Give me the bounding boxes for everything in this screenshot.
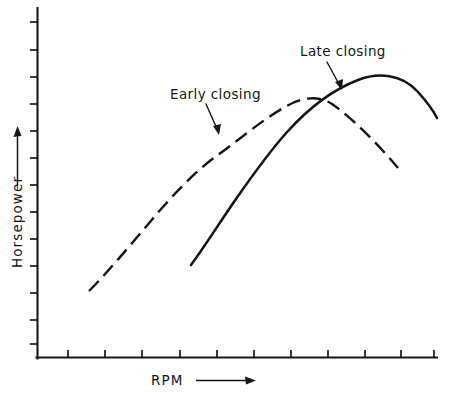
x-axis-label: RPM bbox=[151, 372, 183, 388]
late-closing-label: Late closing bbox=[300, 43, 386, 59]
y-axis-label: Horsepower bbox=[9, 176, 25, 268]
early-closing-annotation: Early closing bbox=[170, 86, 261, 135]
chart-figure: Early closing Late closing RPM Horsepowe… bbox=[0, 0, 453, 395]
early-closing-leader-arrowhead bbox=[213, 124, 221, 135]
x-axis-label-group: RPM bbox=[151, 372, 256, 388]
y-axis-label-group: Horsepower bbox=[9, 126, 25, 268]
chart-canvas: Early closing Late closing RPM Horsepowe… bbox=[0, 0, 453, 395]
axis-group bbox=[37, 8, 438, 359]
late-closing-curve bbox=[191, 76, 437, 265]
early-closing-curve bbox=[89, 98, 398, 291]
early-closing-label: Early closing bbox=[170, 86, 261, 102]
arrow-right-icon bbox=[245, 377, 256, 385]
arrow-up-icon bbox=[14, 126, 22, 137]
late-closing-annotation: Late closing bbox=[300, 43, 386, 90]
